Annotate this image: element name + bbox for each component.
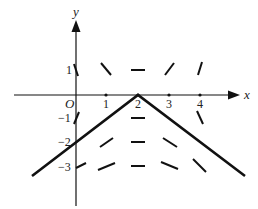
slope-segment <box>198 62 202 75</box>
x-tick-3: 3 <box>166 97 172 111</box>
slope-segment <box>161 162 178 169</box>
slope-segment <box>165 63 174 75</box>
x-axis-label: x <box>243 87 250 102</box>
y-tick-1: 1 <box>66 63 72 77</box>
origin-label: O <box>65 96 75 111</box>
diagram-canvas: x 1 2 3 4 y O 1 −1 −2 −3 <box>0 0 258 209</box>
x-axis-arrow-icon <box>228 91 240 100</box>
y-axis: y O 1 −1 −2 −3 <box>58 4 81 206</box>
x-tick-4: 4 <box>197 97 203 111</box>
slope-segment <box>197 111 203 124</box>
slope-segment <box>163 138 177 147</box>
slope-field <box>74 62 206 172</box>
slope-segment <box>98 163 115 170</box>
y-axis-arrow-icon <box>72 20 81 32</box>
slope-segment <box>101 63 111 75</box>
y-axis-label: y <box>71 4 79 19</box>
x-tick-2: 2 <box>135 97 141 111</box>
slope-field-figure: x 1 2 3 4 y O 1 −1 −2 −3 <box>0 0 258 209</box>
y-tick-neg1: −1 <box>58 111 71 125</box>
y-tick-neg3: −3 <box>58 160 71 174</box>
slope-segment <box>76 163 86 168</box>
slope-segment <box>193 159 206 172</box>
x-tick-1: 1 <box>103 97 109 111</box>
slope-segment <box>100 138 113 147</box>
